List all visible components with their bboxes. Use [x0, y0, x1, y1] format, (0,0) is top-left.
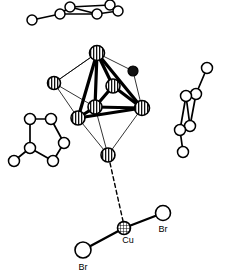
br-label-bottom: Br — [79, 262, 88, 272]
ring-atom — [113, 6, 123, 16]
ring-atom — [55, 9, 65, 19]
dashed-coordination-bond — [110, 163, 123, 221]
ring-atom — [25, 143, 36, 154]
ring-atom — [59, 138, 70, 149]
ring-atom — [92, 9, 102, 19]
cu-label: Cu — [122, 235, 134, 245]
structure-canvas: CuBrBr — [0, 0, 226, 278]
cluster-atom-striped — [71, 111, 85, 125]
ring-atom — [9, 156, 20, 167]
ring-atom — [175, 125, 186, 136]
bromine-atom — [156, 206, 171, 221]
ring-bond — [70, 5, 110, 7]
ring-atom — [178, 147, 189, 158]
cluster-atom-striped — [90, 46, 105, 61]
left-ring-fragment — [9, 114, 70, 167]
ring-atom — [181, 91, 192, 102]
copper-atom — [118, 222, 131, 235]
cluster-atom-striped — [88, 100, 102, 114]
cluster-atom-filled — [128, 66, 138, 76]
cluster-thin-bond — [108, 108, 142, 155]
ring-atom — [46, 114, 57, 125]
ring-atom — [48, 156, 59, 167]
copper-dibromide-atoms — [75, 206, 171, 259]
ring-atom — [202, 63, 213, 74]
bromine-atom — [75, 242, 91, 258]
top-ring-fragment — [27, 0, 123, 25]
ring-atom — [65, 2, 75, 12]
ring-atom — [27, 15, 37, 25]
cluster-to-copper-dashed-bond — [110, 163, 123, 221]
cluster-atom-striped — [135, 101, 150, 116]
right-ring-fragment — [175, 63, 213, 158]
cluster-atom-striped — [48, 77, 61, 90]
cluster-atom-striped — [106, 79, 120, 93]
br-label-right: Br — [159, 224, 168, 234]
ring-atom — [191, 89, 202, 100]
structure-figure: CuBrBr — [0, 0, 226, 278]
ring-atom — [25, 114, 36, 125]
cluster-atom-striped — [101, 148, 115, 162]
